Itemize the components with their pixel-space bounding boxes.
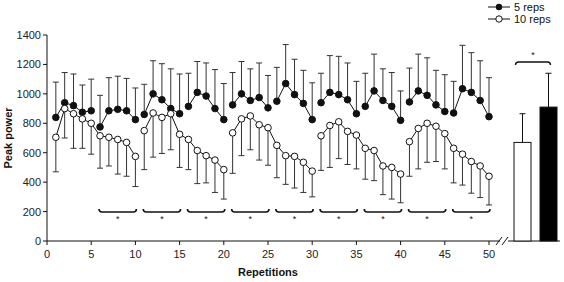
data-point-open [256,121,263,128]
peak-power-chart: 0200400600800100012001400051015202530354… [0,0,564,282]
y-tick-label: 1000 [17,88,41,100]
data-point-filled [388,103,395,110]
significance-star: * [249,214,253,224]
data-point-filled [442,108,449,115]
series-5-reps [53,45,493,131]
x-axis-title: Repetitions [238,266,298,278]
y-tick-label: 400 [23,176,41,188]
data-point-open [114,136,121,143]
significance-bracket [99,209,136,212]
data-point-open [309,168,316,175]
data-point-open [141,127,148,134]
data-point-open [300,159,307,166]
data-point-open [176,131,183,138]
x-tick-label: 0 [44,248,50,260]
data-point-open [106,134,113,141]
data-point-open [185,136,192,143]
data-point-filled [203,93,210,100]
x-tick-label: 45 [439,248,451,260]
data-point-open [406,138,413,145]
data-point-filled [309,116,316,123]
data-point-filled [477,97,484,104]
data-point-open [282,152,289,159]
significance-bracket [232,209,269,212]
data-point-open [238,116,245,123]
data-point-filled [141,111,148,118]
data-point-open [265,124,272,131]
axis-break-mark [502,237,508,245]
data-point-open [167,110,174,117]
data-point-filled [468,89,475,96]
data-point-filled [185,103,192,110]
data-point-open [415,125,422,132]
data-point-open [380,163,387,170]
data-point-open [459,151,466,158]
data-point-filled [97,124,104,131]
summary-significance-star: * [531,50,535,60]
data-point-open [433,123,440,130]
data-point-filled [450,110,457,117]
data-point-filled [353,110,360,117]
x-tick-label: 15 [173,248,185,260]
x-tick-label: 5 [88,248,94,260]
data-point-filled [274,98,281,105]
legend-label-5-reps: 5 reps [514,1,545,13]
data-point-filled [229,102,236,109]
data-point-open [388,164,395,171]
data-point-open [397,171,404,178]
significance-star: * [470,214,474,224]
legend: 5 reps 10 reps [488,1,551,25]
data-point-open [97,132,104,139]
data-point-filled [397,117,404,124]
summary-significance-bracket [516,62,551,65]
axes: 0200400600800100012001400051015202530354… [17,29,560,260]
data-point-filled [335,91,342,98]
data-point-open [221,166,228,173]
data-point-open [229,130,236,137]
x-tick-label: 20 [218,248,230,260]
data-point-filled [238,91,245,98]
data-point-open [335,119,342,126]
data-point-filled [380,97,387,104]
data-point-open [53,134,60,141]
data-point-open [212,157,219,164]
data-point-open [468,158,475,165]
open-circle-icon [496,16,502,22]
data-point-filled [424,92,431,99]
data-point-open [247,113,254,120]
data-point-open [327,122,334,129]
significance-star: * [381,214,385,224]
data-point-open [486,173,493,180]
significance-bracket [320,209,357,212]
data-point-open [61,105,68,112]
y-tick-label: 0 [35,235,41,247]
significance-star: * [116,214,120,224]
significance-star: * [337,214,341,224]
data-point-filled [79,109,86,116]
series-line [56,109,136,157]
data-point-open [194,147,201,154]
data-point-filled [327,89,334,96]
data-point-open [353,132,360,139]
y-tick-label: 600 [23,147,41,159]
summary-bar [540,107,557,241]
data-point-filled [291,91,298,98]
x-tick-label: 35 [350,248,362,260]
data-point-filled [300,100,307,107]
data-point-open [371,147,378,154]
data-point-filled [212,105,219,112]
data-point-filled [159,96,166,103]
x-tick-label: 25 [262,248,274,260]
data-point-filled [406,99,413,106]
series-line [409,123,489,176]
data-point-open [450,145,457,152]
data-point-filled [132,116,139,123]
data-point-filled [415,88,422,95]
data-point-open [203,152,210,159]
significance-star: * [204,214,208,224]
significance-brackets: ********* [99,209,490,224]
data-point-open [132,153,139,160]
data-point-filled [256,94,263,101]
x-tick-label: 50 [483,248,495,260]
data-point-filled [176,110,183,117]
